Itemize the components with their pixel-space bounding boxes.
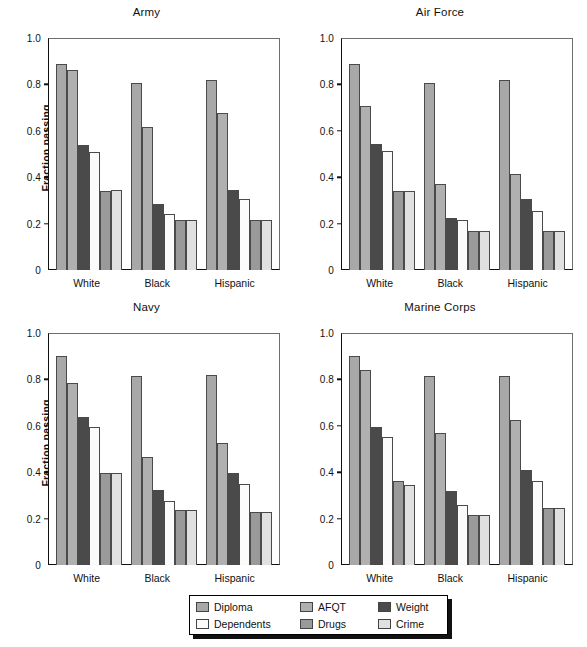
bar-drugs bbox=[393, 481, 404, 565]
bar-drugs bbox=[250, 220, 261, 270]
x-axis-category-label: Black bbox=[437, 572, 463, 587]
bar-crime bbox=[554, 231, 565, 270]
bar-group bbox=[56, 38, 122, 270]
bar-drugs bbox=[468, 515, 479, 565]
bar-afqt bbox=[67, 70, 78, 270]
bar-group bbox=[499, 38, 565, 270]
x-axis-category-label: White bbox=[366, 277, 393, 292]
bar-weight bbox=[371, 144, 382, 270]
legend-label: Dependents bbox=[214, 618, 271, 630]
bar-group bbox=[424, 38, 490, 270]
panel-title: Army bbox=[0, 6, 293, 18]
panel-title: Navy bbox=[0, 301, 293, 313]
legend-swatch-icon bbox=[300, 619, 313, 629]
bar-diploma bbox=[424, 376, 435, 565]
y-axis-tick-label: 1.0 bbox=[27, 33, 48, 44]
chart-legend: DiplomaAFQTWeightDependentsDrugsCrime bbox=[189, 595, 448, 635]
x-axis-category-label: Hispanic bbox=[508, 572, 548, 587]
bar-dependents bbox=[89, 152, 100, 270]
bar-crime bbox=[261, 220, 272, 270]
bar-dependents bbox=[382, 437, 393, 565]
bar-weight bbox=[446, 218, 457, 270]
x-axis-labels: WhiteBlackHispanic bbox=[48, 270, 280, 292]
bar-afqt bbox=[510, 420, 521, 565]
x-axis-category-label: Hispanic bbox=[215, 277, 255, 292]
bar-drugs bbox=[100, 473, 111, 565]
figure-panel-grid: Army Fraction passing 1.00.80.60.40.20 W… bbox=[0, 0, 587, 647]
bar-diploma bbox=[131, 83, 142, 270]
bar-weight bbox=[153, 490, 164, 565]
bar-groups bbox=[341, 333, 573, 565]
bar-drugs bbox=[543, 508, 554, 565]
bar-afqt bbox=[435, 433, 446, 565]
bar-weight bbox=[78, 145, 89, 270]
bar-diploma bbox=[56, 356, 67, 565]
legend-swatch-icon bbox=[196, 602, 209, 612]
bar-groups bbox=[48, 333, 280, 565]
bar-afqt bbox=[217, 113, 228, 270]
y-axis-tick-label: 0 bbox=[328, 265, 341, 276]
panel-marine-corps: Marine Corps 1.00.80.60.40.20 WhiteBlack… bbox=[293, 295, 587, 590]
plot-area: 1.00.80.60.40.20 WhiteBlackHispanic bbox=[48, 333, 280, 565]
legend-label: AFQT bbox=[318, 601, 346, 613]
bar-diploma bbox=[206, 375, 217, 565]
bar-group bbox=[349, 38, 415, 270]
bar-crime bbox=[111, 190, 122, 270]
x-axis-labels: WhiteBlackHispanic bbox=[341, 565, 573, 587]
bar-afqt bbox=[142, 127, 153, 270]
bar-crime bbox=[111, 473, 122, 565]
y-axis-tick-label: 1.0 bbox=[27, 328, 48, 339]
bar-drugs bbox=[175, 510, 186, 565]
bar-group bbox=[56, 333, 122, 565]
plot-area: 1.00.80.60.40.20 WhiteBlackHispanic bbox=[341, 333, 573, 565]
bar-weight bbox=[153, 204, 164, 270]
x-axis-category-label: Black bbox=[437, 277, 463, 292]
bar-diploma bbox=[349, 64, 360, 270]
bar-group bbox=[349, 333, 415, 565]
legend-item-diploma: Diploma bbox=[196, 601, 300, 613]
y-axis-tick-label: 0 bbox=[328, 560, 341, 571]
bar-drugs bbox=[250, 512, 261, 565]
plot-area: 1.00.80.60.40.20 WhiteBlackHispanic bbox=[341, 38, 573, 270]
bar-crime bbox=[261, 512, 272, 565]
bar-weight bbox=[228, 190, 239, 270]
bar-weight bbox=[446, 491, 457, 565]
bar-dependents bbox=[164, 501, 175, 565]
panel-title: Marine Corps bbox=[293, 301, 587, 313]
bar-dependents bbox=[239, 484, 250, 565]
small-multiples-grid: Army Fraction passing 1.00.80.60.40.20 W… bbox=[0, 0, 587, 590]
legend-swatch-icon bbox=[300, 602, 313, 612]
legend-item-drugs: Drugs bbox=[300, 618, 378, 630]
x-axis-category-label: White bbox=[73, 572, 100, 587]
bar-weight bbox=[521, 470, 532, 565]
x-axis-labels: WhiteBlackHispanic bbox=[48, 565, 280, 587]
legend-label: Crime bbox=[396, 618, 424, 630]
legend-item-dependents: Dependents bbox=[196, 618, 300, 630]
bar-weight bbox=[228, 473, 239, 565]
bar-afqt bbox=[142, 457, 153, 565]
bar-crime bbox=[404, 191, 415, 270]
bar-dependents bbox=[89, 427, 100, 565]
bar-crime bbox=[479, 515, 490, 565]
y-axis-tick-label: 0 bbox=[35, 265, 48, 276]
bar-crime bbox=[479, 231, 490, 270]
bar-afqt bbox=[435, 184, 446, 270]
bar-dependents bbox=[457, 220, 468, 270]
legend-item-weight: Weight bbox=[378, 601, 453, 613]
bar-group bbox=[131, 333, 197, 565]
bar-diploma bbox=[499, 376, 510, 565]
bar-dependents bbox=[532, 481, 543, 565]
bar-afqt bbox=[360, 106, 371, 270]
bar-groups bbox=[48, 38, 280, 270]
legend-label: Weight bbox=[396, 601, 429, 613]
bar-crime bbox=[186, 510, 197, 565]
bar-drugs bbox=[543, 231, 554, 270]
bar-crime bbox=[404, 485, 415, 565]
bar-diploma bbox=[349, 356, 360, 565]
bar-group bbox=[131, 38, 197, 270]
bar-drugs bbox=[393, 191, 404, 270]
bar-dependents bbox=[164, 214, 175, 270]
bar-diploma bbox=[424, 83, 435, 270]
legend-item-afqt: AFQT bbox=[300, 601, 378, 613]
bar-diploma bbox=[131, 376, 142, 565]
